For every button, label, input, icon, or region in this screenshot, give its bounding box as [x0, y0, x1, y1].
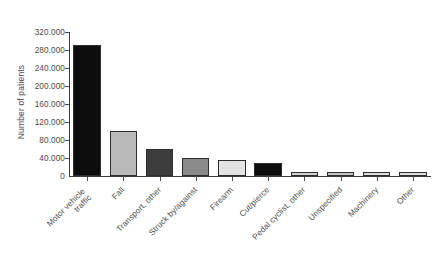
bar-chart: Number of patients 320.000280.000240.000…: [0, 0, 436, 259]
y-axis-tick-mark: [65, 158, 69, 159]
x-axis-tick-mark: [232, 177, 233, 181]
x-axis-tick-label-line: Unspecified: [306, 185, 343, 222]
x-axis-tick-mark: [160, 177, 161, 181]
x-axis-tick-mark: [123, 177, 124, 181]
x-axis-tick-label-line: Firearm: [208, 185, 235, 212]
x-axis-tick-mark: [413, 177, 414, 181]
x-axis-tick-mark: [87, 177, 88, 181]
x-axis-tick-mark: [304, 177, 305, 181]
y-axis-tick-mark: [65, 122, 69, 123]
y-axis-tick-mark: [65, 86, 69, 87]
y-axis-tick-mark: [65, 104, 69, 105]
y-axis-tick-mark: [65, 50, 69, 51]
y-axis-tick-mark: [65, 32, 69, 33]
x-axis-tick-label-line: Cut/pierce: [238, 185, 271, 218]
x-axis-tick-mark: [196, 177, 197, 181]
x-axis-tick-label-line: Fall: [111, 185, 127, 201]
x-axis-tick-mark: [268, 177, 269, 181]
x-axis-tick-label-line: Machinery: [346, 185, 380, 219]
x-axis-tick-label: Motor vehicletraffic: [0, 187, 93, 259]
x-axis-tick-label-line: Other: [395, 185, 416, 206]
x-axis-tick-mark: [341, 177, 342, 181]
x-axis-tick-labels: Motor vehicletrafficFallTransport, other…: [0, 0, 436, 259]
y-axis-tick-mark: [65, 68, 69, 69]
x-axis-tick-mark: [377, 177, 378, 181]
y-axis-tick-mark: [65, 140, 69, 141]
